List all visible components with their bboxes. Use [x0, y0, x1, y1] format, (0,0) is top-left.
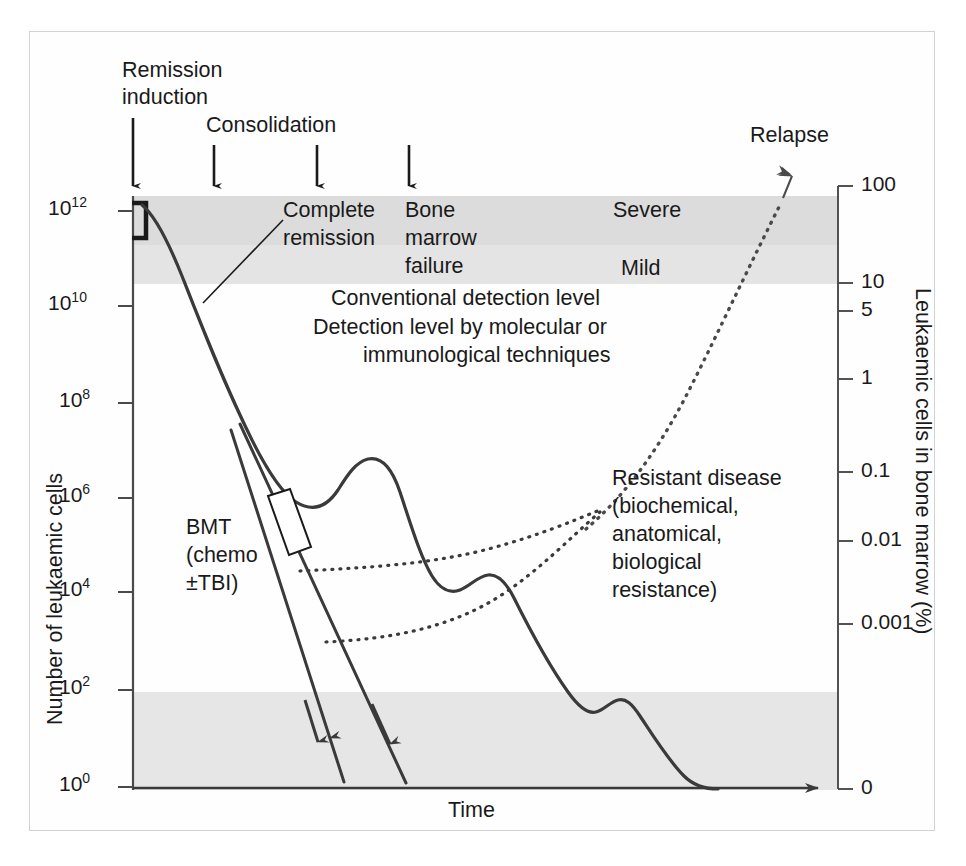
label-bmt-line3: ±TBI) [186, 571, 238, 596]
label-band-severe: Severe [613, 198, 681, 223]
figure-root: Remission induction Consolidation Comple… [0, 0, 966, 866]
label-remission-induction-line1: Remission [122, 58, 222, 83]
label-resistant-line3: anatomical, [612, 522, 722, 547]
y2-tick-0-01: 0.01 [861, 527, 902, 552]
band-severe [133, 196, 837, 245]
y-tick-1e0: 100 [59, 772, 90, 797]
y-tick-1e10: 1010 [48, 291, 87, 316]
label-conventional-detection-level: Conventional detection level [331, 286, 600, 311]
y-tick-1e10-base: 10 [48, 291, 71, 314]
label-resistant-line5: resistance) [612, 578, 717, 603]
label-resistant-line2: (biochemical, [612, 494, 739, 519]
y-tick-1e12-exp: 12 [71, 194, 87, 210]
y-tick-1e2-exp: 2 [82, 673, 90, 689]
y2-tick-0-001: 0.001 [861, 610, 914, 635]
band-mild [133, 245, 837, 284]
label-resistant-line1: Resistant disease [612, 466, 782, 491]
y2-tick-0: 0 [861, 775, 873, 800]
series-resistant-disease-1 [300, 510, 600, 571]
y-tick-1e12-base: 10 [48, 196, 71, 219]
y-tick-1e8-exp: 8 [82, 386, 90, 402]
y2-tick-100: 100 [861, 172, 896, 197]
y2-tick-10: 10 [861, 269, 884, 294]
band-undetectable [133, 692, 837, 790]
y2-tick-1: 1 [861, 365, 873, 390]
label-complete-remission-line2: remission [283, 226, 375, 251]
label-molecular-detection-line1: Detection level by molecular or [313, 315, 607, 340]
label-band-mild: Mild [621, 256, 660, 281]
y-tick-1e8-base: 10 [59, 388, 82, 411]
y-tick-1e12: 1012 [48, 196, 87, 221]
y-tick-1e10-exp: 10 [71, 289, 87, 305]
bmt-treatment-box [268, 489, 311, 555]
label-consolidation: Consolidation [206, 113, 336, 138]
label-bmt-line2: (chemo [186, 543, 258, 568]
label-bone-marrow-failure-line1: Bone [405, 198, 455, 223]
y2-tick-0-1: 0.1 [861, 458, 890, 483]
y-tick-1e0-exp: 0 [82, 770, 90, 786]
y-tick-1e4-exp: 4 [82, 575, 90, 591]
y2-tick-5: 5 [861, 297, 873, 322]
left-axis [118, 196, 133, 790]
right-axis [838, 186, 853, 789]
label-bone-marrow-failure-line3: failure [405, 254, 464, 279]
label-bmt-line1: BMT [186, 515, 231, 540]
label-resistant-line4: biological [612, 550, 702, 575]
y-tick-1e8: 108 [59, 388, 90, 413]
left-axis-title: Number of leukaemic cells [43, 473, 68, 725]
label-relapse: Relapse [750, 123, 829, 148]
right-axis-title: Leukaemic cells in bone marrow (%) [910, 288, 935, 635]
label-remission-induction-line2: induction [122, 85, 208, 110]
label-complete-remission-line1: Complete [283, 198, 375, 223]
y-tick-1e6-exp: 6 [82, 481, 90, 497]
series-resistant-disease-2 [326, 512, 600, 642]
label-bone-marrow-failure-line2: marrow [405, 226, 477, 251]
label-molecular-detection-line2: immunological techniques [363, 343, 610, 368]
x-axis-title: Time [448, 798, 495, 823]
y-tick-1e0-base: 10 [59, 772, 82, 795]
